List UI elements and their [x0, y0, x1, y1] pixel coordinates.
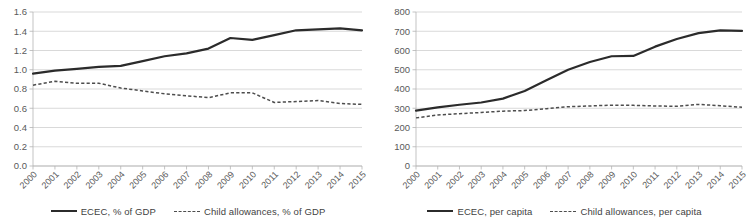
y-tick-label: 200: [394, 122, 410, 133]
x-tick-label: 2009: [596, 169, 617, 190]
y-tick-label: 0.4: [14, 122, 27, 133]
y-tick-label: 0.6: [14, 103, 27, 114]
y-tick-label: 1.0: [14, 64, 27, 75]
x-tick-label: 2013: [683, 169, 704, 190]
x-tick-label: 2008: [575, 169, 596, 190]
y-tick-label: 400: [394, 83, 410, 94]
x-tick-label: 2006: [149, 169, 170, 190]
y-tick-label: 0.0: [14, 160, 27, 171]
x-tick-label: 2004: [105, 169, 126, 190]
y-tick-label: 700: [394, 26, 410, 37]
x-tick-label: 2005: [509, 169, 530, 190]
y-tick-label: 0.2: [14, 141, 27, 152]
y-tick-label: 500: [394, 64, 410, 75]
x-tick-label: 2015: [347, 169, 368, 190]
legend-entry-ecec-per-capita: ECEC, per capita: [427, 206, 532, 217]
x-tick-label: 2003: [466, 169, 487, 190]
x-axis-right: [416, 166, 742, 170]
x-tick-label: 2008: [193, 169, 214, 190]
x-tick-label: 2005: [127, 169, 148, 190]
y-tick-label: 0: [405, 160, 410, 171]
x-tick-label: 2011: [640, 169, 661, 190]
x-tick-label: 2003: [83, 169, 104, 190]
legend-line-solid-icon: [51, 210, 77, 212]
y-tick-label: 600: [394, 45, 410, 56]
x-tick-label: 2009: [215, 169, 236, 190]
y-tick-labels-left: 0.00.20.40.60.81.01.21.41.6: [14, 6, 27, 171]
x-tick-label: 2013: [303, 169, 324, 190]
x-tick-label: 2012: [281, 169, 302, 190]
x-tick-label: 2010: [618, 169, 639, 190]
series-line-dashed: [33, 81, 362, 104]
chart-panel-left: 0.00.20.40.60.81.01.21.41.6 200020012002…: [0, 0, 376, 224]
legend-line-solid-icon: [427, 210, 453, 212]
x-tick-label: 2007: [171, 169, 192, 190]
x-tick-label: 2000: [18, 169, 39, 190]
legend-entry-ecec-gdp: ECEC, % of GDP: [51, 206, 156, 217]
series-line-solid: [416, 30, 742, 110]
legend-label-child-allowances-per-capita: Child allowances, per capita: [580, 206, 701, 217]
x-axis-left: [33, 166, 362, 170]
y-axis-left: [30, 12, 34, 166]
x-tick-label: 2015: [727, 169, 748, 190]
x-tick-label: 2004: [488, 169, 509, 190]
x-tick-label: 2010: [237, 169, 258, 190]
x-tick-label: 2007: [553, 169, 574, 190]
figure-container: 0.00.20.40.60.81.01.21.41.6 200020012002…: [0, 0, 753, 224]
x-tick-label: 2000: [401, 169, 422, 190]
y-tick-label: 100: [394, 141, 410, 152]
legend-line-dashed-icon: [550, 211, 576, 212]
legend-label-ecec-per-capita: ECEC, per capita: [457, 206, 532, 217]
plot-area-right: 0100200300400500600700800 20002001200220…: [376, 0, 753, 195]
legend-right: ECEC, per capita Child allowances, per c…: [376, 200, 753, 222]
x-tick-labels-right: 2000200120022003200420052006200720082009…: [401, 169, 748, 190]
y-tick-label: 0.8: [14, 83, 27, 94]
x-tick-label: 2002: [444, 169, 465, 190]
legend-label-child-allowances-gdp: Child allowances, % of GDP: [204, 206, 325, 217]
x-tick-label: 2001: [422, 169, 443, 190]
y-axis-right: [413, 12, 417, 166]
y-tick-label: 1.4: [14, 26, 27, 37]
y-tick-label: 1.6: [14, 6, 27, 17]
x-tick-label: 2012: [661, 169, 682, 190]
legend-entry-child-allowances-per-capita: Child allowances, per capita: [550, 206, 701, 217]
data-series-right: [416, 30, 742, 118]
y-tick-labels-right: 0100200300400500600700800: [394, 6, 410, 171]
chart-panel-right: 0100200300400500600700800 20002001200220…: [376, 0, 753, 224]
x-tick-label: 2002: [62, 169, 83, 190]
legend-entry-child-allowances-gdp: Child allowances, % of GDP: [174, 206, 325, 217]
series-line-solid: [33, 28, 362, 73]
plot-area-left: 0.00.20.40.60.81.01.21.41.6 200020012002…: [0, 0, 376, 195]
line-chart-right: 0100200300400500600700800 20002001200220…: [376, 0, 753, 195]
y-tick-label: 300: [394, 103, 410, 114]
x-tick-label: 2001: [40, 169, 61, 190]
x-tick-label: 2014: [705, 169, 726, 190]
x-tick-labels-left: 2000200120022003200420052006200720082009…: [18, 169, 368, 190]
legend-line-dashed-icon: [174, 211, 200, 212]
x-tick-label: 2011: [259, 169, 280, 190]
series-line-dashed: [416, 104, 742, 117]
legend-left: ECEC, % of GDP Child allowances, % of GD…: [0, 200, 376, 222]
data-series-left: [33, 28, 362, 104]
x-tick-label: 2006: [531, 169, 552, 190]
line-chart-left: 0.00.20.40.60.81.01.21.41.6 200020012002…: [0, 0, 376, 195]
x-tick-label: 2014: [325, 169, 346, 190]
y-tick-label: 1.2: [14, 45, 27, 56]
y-tick-label: 800: [394, 6, 410, 17]
legend-label-ecec-gdp: ECEC, % of GDP: [81, 206, 156, 217]
gridlines-left: [33, 12, 362, 166]
